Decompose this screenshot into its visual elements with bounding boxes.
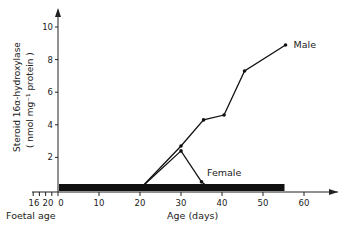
foetal-tick-label: 20 [43, 198, 54, 208]
data-point-male [202, 118, 206, 122]
y-tick-label: 6 [48, 87, 53, 97]
data-point-male [284, 43, 288, 47]
foetal-age-label: Foetal age [6, 210, 56, 221]
foetal-tick-label: 16 [29, 198, 40, 208]
axes: 01020304050601620246810 [29, 8, 338, 208]
baseline-bar-layer [59, 184, 285, 191]
series-line-male [142, 45, 285, 187]
baseline-bar [59, 184, 285, 191]
series-line-female [142, 151, 208, 187]
y-axis-arrow-icon [55, 8, 61, 17]
x-tick-label: 50 [258, 198, 269, 208]
x-axis-arrow-icon [329, 189, 338, 195]
x-axis-label: Age (days) [167, 210, 218, 221]
y-tick-label: 10 [42, 22, 53, 32]
series-label-male: Male [294, 39, 317, 50]
y-tick-label: 4 [48, 120, 53, 130]
x-tick-label: 60 [299, 198, 310, 208]
chart: 01020304050601620246810 MaleFemale Age (… [0, 0, 344, 231]
series-layer: MaleFemale [142, 39, 316, 187]
labels-layer: Age (days) Foetal age Steroid 16α-hydrox… [6, 42, 218, 221]
data-point-male [243, 69, 247, 73]
x-tick-label: 30 [176, 198, 187, 208]
x-tick-label: 0 [58, 198, 63, 208]
x-tick-label: 20 [135, 198, 146, 208]
data-point-male [222, 113, 226, 117]
x-tick-label: 10 [94, 198, 105, 208]
y-axis-label-line2: ( nmol mg⁻¹ protein ) [25, 52, 35, 148]
data-point-female [200, 180, 204, 184]
x-tick-label: 40 [217, 198, 228, 208]
data-point-female [179, 149, 183, 153]
y-tick-label: 8 [48, 55, 53, 65]
y-tick-label: 2 [48, 152, 53, 162]
y-axis-label-line1: Steroid 16α-hydroxylase [12, 42, 22, 152]
series-label-female: Female [207, 167, 242, 178]
data-point-male [179, 144, 183, 148]
